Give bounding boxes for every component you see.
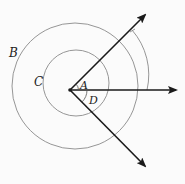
label-c: C <box>34 75 43 89</box>
label-b: B <box>8 46 18 60</box>
ray-lower <box>70 90 145 166</box>
diagram-svg: B C A D <box>0 0 185 184</box>
angle-arc-a <box>76 84 79 90</box>
vertex-point <box>68 88 72 92</box>
angle-diagram: B C A D <box>0 0 185 184</box>
reflex-arc-outer <box>132 30 149 90</box>
label-a: A <box>79 79 88 92</box>
label-d: D <box>88 94 98 107</box>
